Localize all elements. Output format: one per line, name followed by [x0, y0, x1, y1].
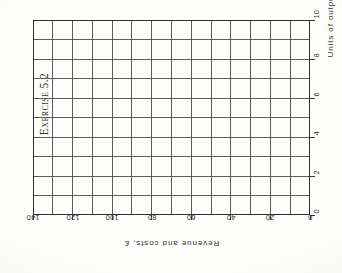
x-axis-tick-label: 2	[312, 170, 321, 174]
y-axis-tick-label: 80	[147, 213, 156, 222]
x-axis-tick-label: 0	[312, 209, 321, 213]
x-axis-tick-label: 4	[312, 131, 321, 135]
y-axis-tick-label: 100	[106, 213, 119, 222]
x-axis-tick-mark	[310, 176, 315, 177]
y-axis-tick-label: 120	[66, 213, 79, 222]
y-axis-tick-label: 20	[266, 213, 275, 222]
x-axis-tick-mark	[310, 137, 315, 138]
x-axis-tick-label: 6	[312, 92, 321, 96]
x-axis-title: Units of output	[326, 0, 335, 70]
x-axis-tick-label: 10	[312, 10, 321, 19]
x-axis-tick-label: 8	[312, 53, 321, 57]
y-axis: 020406080100120140 Revenue and costs, £	[33, 215, 310, 273]
x-axis-tick-mark	[310, 59, 315, 60]
y-axis-title: Revenue and costs, £	[33, 239, 310, 248]
y-axis-tick-label: 60	[187, 213, 196, 222]
x-axis-tick-mark	[310, 98, 315, 99]
y-axis-tick-label: 40	[226, 213, 235, 222]
x-axis: 0246810 Units of output	[310, 20, 342, 215]
grid-lines	[33, 20, 310, 215]
plot-area	[33, 20, 310, 215]
x-axis-tick-mark	[310, 20, 315, 21]
y-axis-tick-label: 0	[308, 213, 312, 222]
y-axis-tick-label: 140	[26, 213, 39, 222]
scanned-graph-page: Exercise 5.2 0246810 Units of output 020…	[0, 0, 342, 273]
